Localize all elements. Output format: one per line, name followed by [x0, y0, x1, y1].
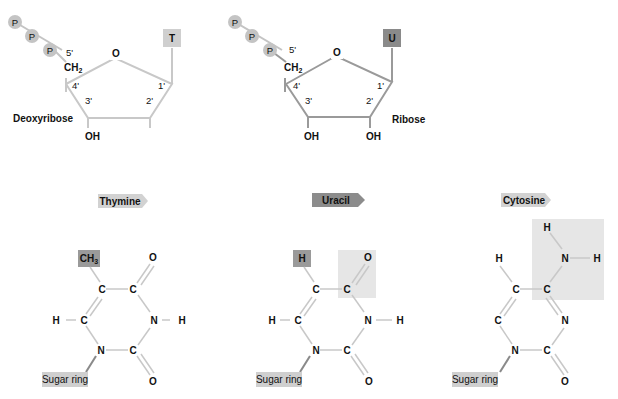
atom-n3: N [364, 315, 371, 326]
atom-h3: H [178, 315, 185, 326]
ring-oxygen: O [112, 48, 120, 59]
nucleotide-diagram: P P P 5' CH2 O T 4' 3' 2' 1' OH Deoxyrib… [0, 0, 618, 399]
atom-n3: N [561, 315, 568, 326]
atom-c5: C [312, 284, 319, 295]
atom-n1: N [312, 345, 319, 356]
thymine-label: Thymine [99, 196, 141, 207]
prime-2: 2' [146, 95, 153, 106]
ch2-label: CH2 [284, 62, 302, 74]
sugar-ring-label: Sugar ring [452, 374, 498, 385]
phosphate-label: P [249, 31, 255, 42]
atom-h4b: H [593, 253, 600, 264]
phosphate-label: P [267, 45, 273, 56]
deoxyribose-structure: P P P 5' CH2 O T 4' 3' 2' 1' OH Deoxyrib… [8, 15, 181, 142]
prime-3: 3' [85, 95, 92, 106]
prime-5: 5' [289, 44, 296, 55]
phosphate-label: P [29, 31, 35, 42]
atom-h5: H [495, 253, 502, 264]
atom-c4: C [343, 284, 350, 295]
cytosine-structure: Cytosine H N H H C C C N N C O [452, 193, 604, 387]
prime-5: 5' [66, 47, 73, 58]
atom-c2: C [543, 345, 550, 356]
atom-n4: N [561, 253, 568, 264]
hydroxyl-3: OH [304, 131, 319, 142]
base-label-u: U [388, 33, 395, 44]
atom-c6: C [80, 315, 87, 326]
atom-c5: C [512, 284, 519, 295]
hydroxyl-3: OH [85, 131, 100, 142]
ribose-label: Ribose [392, 114, 426, 125]
atom-h3: H [396, 315, 403, 326]
hydroxyl-2: OH [366, 131, 381, 142]
thymine-structure: Thymine CH3 C C O C H N H N C O [42, 194, 186, 387]
prime-1: 1' [158, 80, 165, 91]
h5-label: H [298, 253, 305, 264]
atom-h4a: H [543, 222, 550, 233]
deoxyribose-label: Deoxyribose [13, 113, 73, 124]
base-label-t: T [169, 33, 175, 44]
prime-4: 4' [293, 80, 300, 91]
atom-o2: O [149, 376, 157, 387]
ring-oxygen: O [333, 47, 341, 58]
atom-c6: C [294, 315, 301, 326]
uracil-structure: Uracil H C C O C H N H N C O [256, 193, 404, 387]
prime-1: 1' [377, 80, 384, 91]
atom-n1: N [97, 345, 104, 356]
atom-n1: N [511, 345, 518, 356]
phosphate-label: P [232, 17, 238, 28]
atom-c5: C [98, 284, 105, 295]
ribose-structure: P P P 5' CH2 O U 4' 3' 2' 1' OH OH Ribos… [228, 15, 426, 142]
atom-c4: C [129, 284, 136, 295]
prime-2: 2' [366, 95, 373, 106]
prime-3: 3' [305, 95, 312, 106]
cytosine-label: Cytosine [503, 195, 546, 206]
sugar-ring-label: Sugar ring [256, 374, 302, 385]
phosphate-label: P [12, 17, 18, 28]
atom-h6: H [268, 315, 275, 326]
sugar-ring-label: Sugar ring [42, 374, 88, 385]
atom-c6: C [494, 315, 501, 326]
atom-o4: O [364, 252, 372, 263]
atom-c2: C [129, 345, 136, 356]
atom-h6: H [52, 315, 59, 326]
atom-o4: O [149, 252, 157, 263]
phosphate-label: P [47, 45, 53, 56]
atom-c2: C [343, 345, 350, 356]
atom-c4: C [543, 284, 550, 295]
ch2-label: CH2 [64, 62, 82, 74]
uracil-label: Uracil [322, 195, 350, 206]
atom-o2: O [365, 376, 373, 387]
atom-o2: O [561, 376, 569, 387]
atom-n3: N [150, 315, 157, 326]
prime-4: 4' [72, 80, 79, 91]
